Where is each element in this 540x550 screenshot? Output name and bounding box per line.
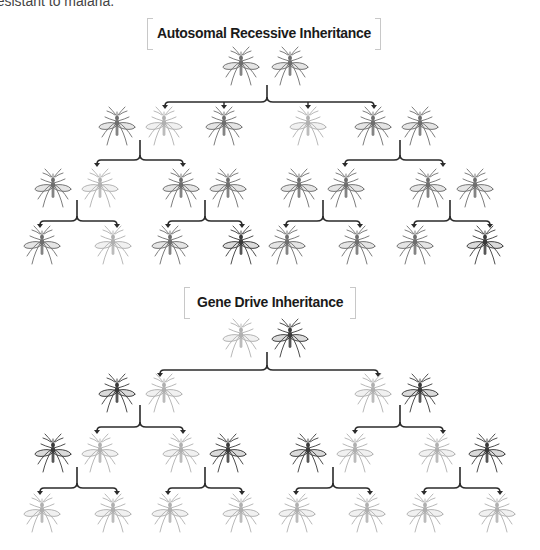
mosquito-icon <box>464 432 510 478</box>
title-bracket-left <box>184 287 190 319</box>
section-title-autosomal: Autosomal Recessive Inheritance <box>147 18 381 48</box>
mosquito-icon <box>264 224 310 270</box>
mosquito-icon <box>90 492 136 538</box>
mosquito-icon <box>344 492 390 538</box>
mosquito-icon <box>201 105 247 151</box>
mosquito-icon <box>30 432 76 478</box>
mosquito-icon <box>158 167 204 213</box>
mosquito-icon <box>205 167 251 213</box>
mosquito-icon <box>414 432 460 478</box>
mosquito-icon <box>19 224 65 270</box>
mosquito-icon <box>94 105 140 151</box>
title-bracket-right <box>375 18 381 50</box>
section-title-text: Autosomal Recessive Inheritance <box>157 24 371 42</box>
mosquito-icon <box>285 105 331 151</box>
mosquito-icon <box>218 492 264 538</box>
mosquito-icon <box>474 492 520 538</box>
mosquito-icon <box>158 432 204 478</box>
mosquito-icon <box>285 432 331 478</box>
mosquito-icon <box>147 492 193 538</box>
mosquito-icon <box>218 224 264 270</box>
mosquito-icon <box>392 224 438 270</box>
mosquito-icon <box>405 167 451 213</box>
mosquito-icon <box>94 372 140 418</box>
title-bracket-right <box>350 287 356 319</box>
mosquito-icon <box>267 45 313 91</box>
mosquito-icon <box>218 317 264 363</box>
caption-text: resistant to malaria. <box>0 0 114 9</box>
section-title-text: Gene Drive Inheritance <box>197 293 343 311</box>
mosquito-icon <box>141 105 187 151</box>
mosquito-icon <box>462 224 508 270</box>
mosquito-icon <box>350 372 396 418</box>
mosquito-icon <box>276 167 322 213</box>
title-bracket-left <box>147 18 153 50</box>
mosquito-icon <box>267 317 313 363</box>
mosquito-icon <box>323 167 369 213</box>
mosquito-icon <box>141 372 187 418</box>
mosquito-icon <box>332 432 378 478</box>
mosquito-icon <box>147 224 193 270</box>
mosquito-icon <box>19 492 65 538</box>
mosquito-icon <box>218 45 264 91</box>
mosquito-icon <box>205 432 251 478</box>
mosquito-icon <box>350 105 396 151</box>
mosquito-icon <box>30 167 76 213</box>
mosquito-icon <box>77 167 123 213</box>
mosquito-icon <box>452 167 498 213</box>
mosquito-icon <box>90 224 136 270</box>
section-title-gene-drive: Gene Drive Inheritance <box>184 287 356 317</box>
mosquito-icon <box>334 224 380 270</box>
mosquito-icon <box>274 492 320 538</box>
mosquito-icon <box>77 432 123 478</box>
mosquito-icon <box>402 492 448 538</box>
mosquito-icon <box>397 105 443 151</box>
mosquito-icon <box>397 372 443 418</box>
